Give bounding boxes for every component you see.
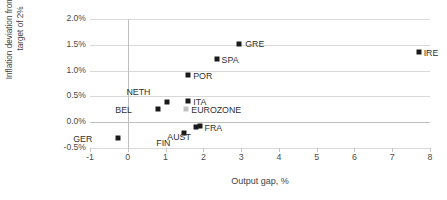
data-point-neth xyxy=(165,99,170,104)
x-tick-label: 2 xyxy=(201,152,206,162)
x-tick-label: -1 xyxy=(86,152,94,162)
data-label-aust: AUST xyxy=(167,132,190,142)
data-label-eurozone: EUROZONE xyxy=(191,105,241,115)
data-label-fra: FRA xyxy=(205,123,223,133)
data-point-ger xyxy=(116,135,121,140)
x-tick-label: 3 xyxy=(239,152,244,162)
y-tick-text: 1.5% xyxy=(66,39,86,49)
x-tick-label: 6 xyxy=(352,152,357,162)
data-point-eurozone xyxy=(184,107,189,112)
y-tick-text: 1.0% xyxy=(66,65,86,75)
data-point-gre xyxy=(237,41,242,46)
x-tick-label: 4 xyxy=(276,152,281,162)
gridline-y xyxy=(90,122,430,123)
x-tick-label: 5 xyxy=(314,152,319,162)
x-tick-label: 1 xyxy=(163,152,168,162)
data-point-bel xyxy=(156,107,161,112)
plot-area: GERBELNETHEUROZONEITAFINAUSTFRAPORSPAGRE… xyxy=(90,19,430,148)
data-point-spa xyxy=(214,57,219,62)
y-axis-line xyxy=(128,19,129,148)
x-axis-title: Output gap, % xyxy=(90,176,430,186)
data-point-por xyxy=(186,73,191,78)
gridline-y xyxy=(90,19,430,20)
x-tick-label: 0 xyxy=(125,152,130,162)
scatter-chart: Inflation deviation from ECB target of 2… xyxy=(0,0,447,200)
x-tick-label: 7 xyxy=(390,152,395,162)
y-tick-text: -0.5% xyxy=(64,142,86,152)
data-label-gre: GRE xyxy=(245,39,264,49)
gridline-y xyxy=(90,148,430,149)
data-point-fra xyxy=(197,123,202,128)
data-label-ire: IRE xyxy=(424,48,439,58)
y-tick-text: 0.0% xyxy=(66,116,86,126)
y-axis-title-wrap: Inflation deviation from ECB target of 2… xyxy=(0,0,30,160)
x-tick-label: 8 xyxy=(428,152,433,162)
data-label-spa: SPA xyxy=(222,55,239,65)
gridline-y xyxy=(90,71,430,72)
data-label-bel: BEL xyxy=(115,105,132,115)
data-label-neth: NETH xyxy=(127,87,151,97)
data-point-ita xyxy=(186,98,191,103)
y-tick-text: 2.0% xyxy=(66,13,86,23)
y-tick-text: 0.5% xyxy=(66,90,86,100)
data-point-ire xyxy=(416,49,421,54)
data-label-ita: ITA xyxy=(193,97,206,107)
data-label-por: POR xyxy=(193,71,212,81)
y-axis-title: Inflation deviation from ECB target of 2… xyxy=(5,0,26,100)
